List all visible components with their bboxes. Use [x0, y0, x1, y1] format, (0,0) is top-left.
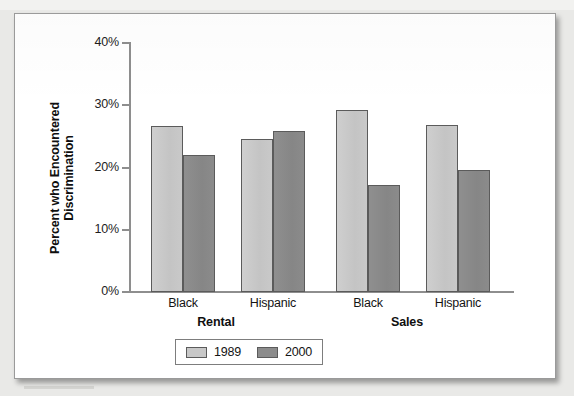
legend-swatch-icon-2000	[257, 347, 278, 358]
bar-1989-0[interactable]	[151, 126, 183, 292]
legend-item-2000[interactable]: 2000	[257, 345, 312, 359]
y-tick-40	[122, 42, 130, 44]
bar-2000-1[interactable]	[273, 131, 305, 292]
legend-item-1989[interactable]: 1989	[186, 345, 241, 359]
bar-2000-0[interactable]	[183, 155, 215, 292]
y-tick-20	[122, 167, 130, 169]
chart-page: Percent who Encountered Discrimination 4…	[0, 0, 574, 396]
y-tick-label-wrap-20: 20%	[67, 160, 119, 174]
y-tick-30	[122, 104, 130, 106]
bar-1989-2[interactable]	[336, 110, 368, 292]
y-tick-label-30: 30%	[75, 97, 119, 111]
page-top-strip	[0, 0, 574, 10]
y-tick-label-0: 0%	[75, 284, 119, 298]
bar-2000-3[interactable]	[458, 170, 490, 292]
y-tick-label-10: 10%	[75, 222, 119, 236]
x-group-label-sales: Sales	[337, 315, 477, 329]
bar-chart: Percent who Encountered Discrimination 4…	[15, 14, 555, 378]
y-tick-label-wrap-0: 0%	[67, 284, 119, 298]
bar-1989-3[interactable]	[426, 125, 458, 292]
y-tick-label-40: 40%	[75, 35, 119, 49]
y-tick-label-wrap-40: 40%	[67, 35, 119, 49]
y-tick-label-20: 20%	[75, 160, 119, 174]
y-tick-0	[122, 291, 130, 293]
legend-swatch-icon-1989	[186, 347, 207, 358]
y-tick-10	[122, 229, 130, 231]
y-tick-label-wrap-10: 10%	[67, 222, 119, 236]
bar-2000-2[interactable]	[368, 185, 400, 292]
bar-1989-1[interactable]	[241, 139, 273, 292]
x-category-label-1: Hispanic	[218, 296, 328, 310]
legend-label-1989: 1989	[214, 345, 241, 359]
x-category-label-3: Hispanic	[403, 296, 513, 310]
y-tick-label-wrap-30: 30%	[67, 97, 119, 111]
legend-label-2000: 2000	[285, 345, 312, 359]
chart-legend: 1989 2000	[175, 339, 323, 365]
x-group-label-rental: Rental	[146, 315, 286, 329]
chart-card: Percent who Encountered Discrimination 4…	[14, 13, 556, 379]
page-bottom-artifact	[24, 386, 94, 389]
